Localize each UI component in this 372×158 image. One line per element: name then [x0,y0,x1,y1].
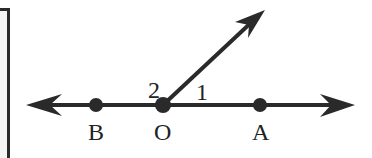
angle-label-1: 1 [196,80,208,104]
label-o: O [154,120,171,144]
label-a: A [252,120,269,144]
ray-from-o [163,18,256,105]
point-a [253,98,267,112]
label-b: B [88,120,104,144]
angle-label-2: 2 [148,78,160,102]
angle-diagram [0,0,372,158]
point-b [89,98,103,112]
